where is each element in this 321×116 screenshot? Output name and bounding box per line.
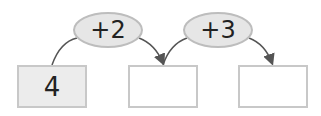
arc-in-2 <box>163 38 187 65</box>
number-box-2[interactable] <box>128 65 198 108</box>
operation-oval-1: +2 <box>73 12 143 48</box>
number-box-1-value: 4 <box>44 72 61 102</box>
number-box-1: 4 <box>17 65 87 108</box>
operation-oval-2: +3 <box>183 12 253 48</box>
operation-label-1: +2 <box>90 16 125 44</box>
arrow-out-1 <box>139 38 163 63</box>
arc-in-1 <box>52 38 77 65</box>
operation-label-2: +3 <box>200 16 235 44</box>
number-box-3[interactable] <box>238 65 308 108</box>
arrow-out-2 <box>249 38 272 63</box>
